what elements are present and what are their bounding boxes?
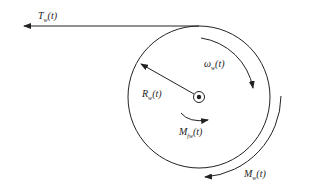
tension-label: Tw(t)	[38, 10, 57, 23]
angular-velocity-label: ωw(t)	[204, 58, 225, 71]
moment-label: Mw(t)	[244, 168, 266, 181]
friction-moment-arrow	[181, 113, 208, 121]
hub-center-icon	[197, 95, 201, 99]
radius-label: Rw(t)	[142, 88, 162, 101]
friction-moment-label: Mfw(t)	[179, 126, 202, 139]
